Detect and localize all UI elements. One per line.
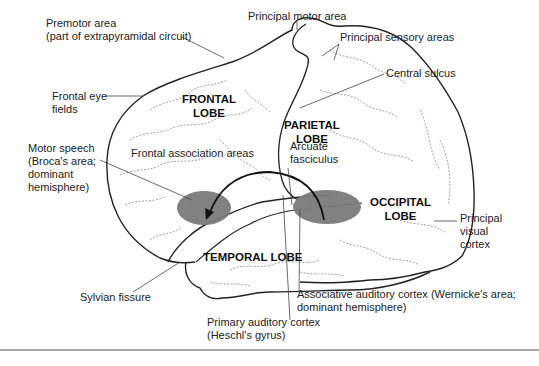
primary-auditory-line2: (Heschl's gyrus) [207,329,320,342]
temporal-lobe-label: TEMPORAL LOBE [203,251,302,265]
principal-visual-cortex-label: Principal visual cortex [460,212,502,251]
frontal-lobe-line1: FRONTAL [182,93,236,107]
temporal-lobe-line1: TEMPORAL LOBE [203,251,302,265]
central-sulcus-line1: Central sulcus [386,67,456,80]
visual-cortex-line2: visual [460,225,502,238]
motor-speech-label: Motor speech (Broca's area; dominant hem… [28,142,96,194]
primary-auditory-line1: Primary auditory cortex [207,316,320,329]
principal-sensory-line1: Principal sensory areas [340,31,454,44]
brain-diagram: FRONTAL LOBE PARIETAL LOBE OCCIPITAL LOB… [0,0,539,366]
sylvian-line1: Sylvian fissure [80,291,151,304]
premotor-line1: Premotor area [46,17,192,30]
wernicke-line2: dominant hemisphere) [297,301,516,314]
occipital-lobe-label: OCCIPITAL LOBE [370,196,431,223]
occipital-lobe-line1: OCCIPITAL [370,196,431,210]
parietal-lobe-line1: PARIETAL [284,119,340,133]
principal-motor-area-label: Principal motor area [248,10,346,23]
frontal-lobe-line2: LOBE [182,107,236,121]
visual-cortex-line3: cortex [460,238,502,251]
wernicke-line1: Associative auditory cortex (Wernicke's … [297,288,516,301]
frontal-eye-line1: Frontal eye [52,90,107,103]
motor-speech-line3: dominant [28,168,96,181]
occipital-lobe-line2: LOBE [370,210,431,224]
frontal-eye-fields-label: Frontal eye fields [52,90,107,116]
arcuate-line1: Arcuate [290,140,338,153]
premotor-line2: (part of extrapyramidal circuit) [46,30,192,43]
premotor-area-label: Premotor area (part of extrapyramidal ci… [46,17,192,43]
primary-auditory-cortex-label: Primary auditory cortex (Heschl's gyrus) [207,316,320,342]
motor-speech-line4: hemisphere) [28,181,96,194]
motor-speech-line1: Motor speech [28,142,96,155]
principal-motor-line1: Principal motor area [248,10,346,23]
brocas-area-highlight [177,191,231,225]
motor-speech-line2: (Broca's area; [28,155,96,168]
arcuate-line2: fasciculus [290,153,338,166]
frontal-lobe-label: FRONTAL LOBE [182,93,236,120]
central-sulcus-label: Central sulcus [386,67,456,80]
principal-sensory-areas-label: Principal sensory areas [340,31,454,44]
frontal-association-line1: Frontal association areas [131,147,254,160]
wernickes-area-highlight [293,190,361,224]
sylvian-fissure-label: Sylvian fissure [80,291,151,304]
cerebrum-outline [232,18,474,283]
wernickes-area-label: Associative auditory cortex (Wernicke's … [297,288,516,314]
frontal-association-areas-label: Frontal association areas [131,147,254,160]
arcuate-fasciculus-label: Arcuate fasciculus [290,140,338,166]
leader-lines [100,20,457,320]
frontal-eye-line2: fields [52,103,107,116]
visual-cortex-line1: Principal [460,212,502,225]
